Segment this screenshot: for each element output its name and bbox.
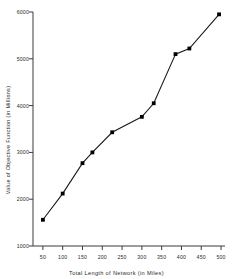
x-tick-label: 300: [137, 254, 146, 260]
x-tick-label: 200: [98, 254, 107, 260]
x-tick-label: 150: [78, 254, 87, 260]
x-tick-label: 100: [58, 254, 67, 260]
data-point: [140, 115, 144, 119]
line-chart-plot: [0, 0, 233, 279]
chart-axes: [33, 12, 225, 246]
x-tick-label: 500: [216, 254, 225, 260]
data-point: [110, 130, 114, 134]
data-point: [90, 151, 94, 155]
data-point: [217, 12, 221, 16]
data-point: [81, 161, 85, 165]
x-tick-label: 50: [40, 254, 46, 260]
data-point: [41, 218, 45, 222]
x-tick-labels: 50100150200250300350400450500: [0, 250, 233, 262]
y-tick-marks: [29, 12, 33, 246]
x-tick-label: 400: [177, 254, 186, 260]
data-line: [43, 14, 219, 219]
data-point: [152, 101, 156, 105]
y-axis-title: Value of Objective Function (in Millions…: [2, 0, 14, 279]
x-axis-title: Total Length of Network (in Miles): [0, 270, 233, 276]
y-axis-title-text: Value of Objective Function (in Millions…: [5, 85, 11, 194]
data-point: [187, 47, 191, 51]
x-tick-label: 350: [157, 254, 166, 260]
chart-figure: 100020003000400050006000 501001502002503…: [0, 0, 233, 279]
x-tick-label: 450: [197, 254, 206, 260]
data-point: [61, 192, 65, 196]
x-tick-label: 250: [117, 254, 126, 260]
data-point: [174, 52, 178, 56]
